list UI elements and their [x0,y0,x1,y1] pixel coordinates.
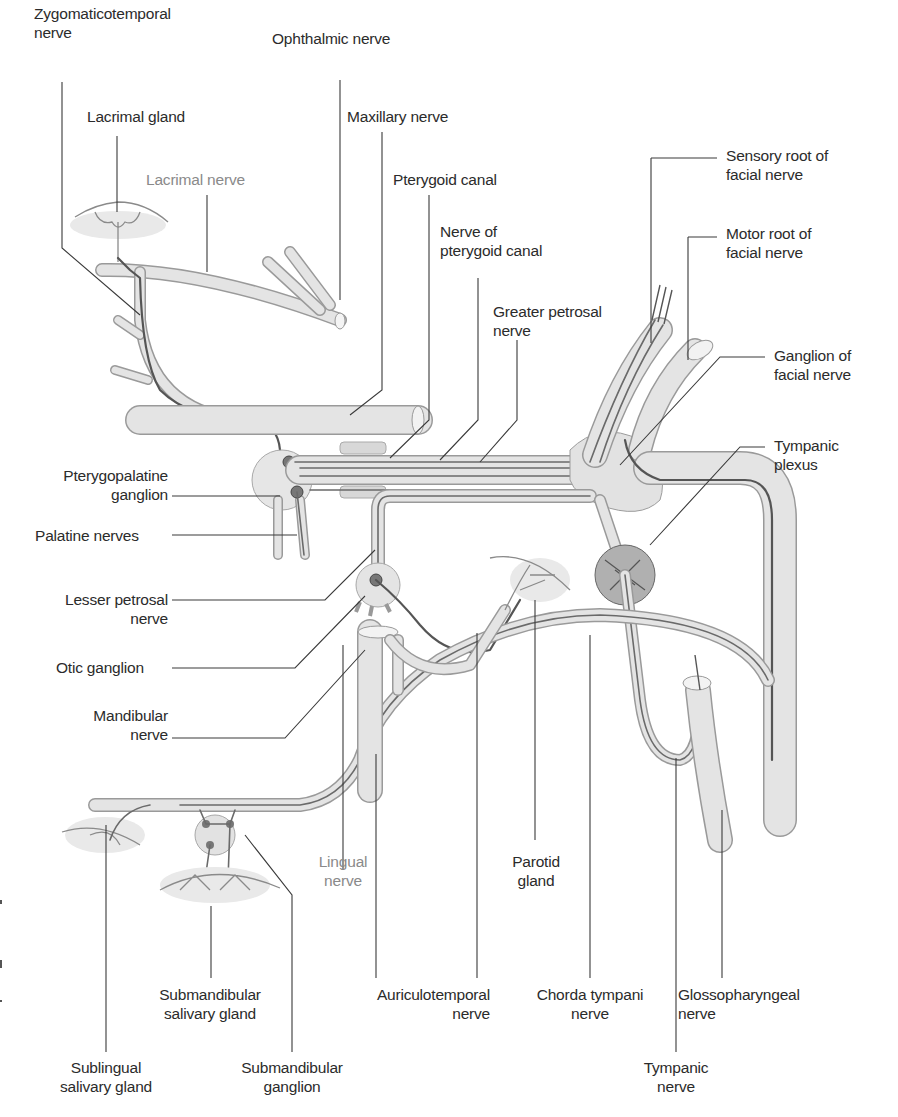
label-glossopharyngeal-nerve: Glossopharyngeal nerve [678,985,800,1023]
label-zygomaticotemporal-nerve: Zygomaticotemporal nerve [34,4,171,42]
label-tympanic-plexus: Tympanic plexus [774,436,839,474]
label-otic-ganglion: Otic ganglion [56,658,144,677]
label-ophthalmic-nerve: Ophthalmic nerve [272,29,390,48]
label-chorda-tympani-nerve: Chorda tympani nerve [515,985,665,1023]
label-maxillary-nerve: Maxillary nerve [347,107,448,126]
label-lacrimal-nerve: Lacrimal nerve [146,170,245,189]
pterygoid-canal-upper [340,442,386,454]
label-lesser-petrosal-nerve: Lesser petrosal nerve [30,590,168,628]
nerve-diagram: Zygomaticotemporal nerve Ophthalmic nerv… [0,0,898,1117]
submandibular-region [62,805,280,903]
label-motor-root-facial-nerve: Motor root of facial nerve [726,224,811,262]
label-sublingual-salivary-gland: Sublingual salivary gland [36,1058,176,1096]
label-nerve-of-pterygoid-canal: Nerve of pterygoid canal [440,222,542,260]
parotid-gland-shape [490,557,570,610]
lacrimal-gland-shape [70,202,168,262]
label-sensory-root-facial-nerve: Sensory root of facial nerve [726,146,828,184]
label-pterygopalatine-ganglion: Pterygopalatine ganglion [30,466,168,504]
label-submandibular-ganglion: Submandibular ganglion [222,1058,362,1096]
label-ganglion-facial-nerve: Ganglion of facial nerve [774,346,851,384]
label-palatine-nerves: Palatine nerves [35,526,139,545]
label-mandibular-nerve: Mandibular nerve [30,706,168,744]
label-submandibular-salivary-gland: Submandibular salivary gland [140,985,280,1023]
chorda-tympani-lingual [95,615,768,805]
label-pterygoid-canal: Pterygoid canal [393,170,497,189]
label-auriculotemporal-nerve: Auriculotemporal nerve [340,985,490,1023]
label-greater-petrosal-nerve: Greater petrosal nerve [493,302,602,340]
leader-lines [62,80,765,1052]
maxillary-nerve-trunk [140,406,424,434]
label-parotid-gland: Parotid gland [500,852,572,890]
label-lacrimal-gland: Lacrimal gland [87,107,185,126]
edge-specks [0,900,2,1002]
label-lingual-nerve: Lingual nerve [305,852,381,890]
label-tympanic-nerve: Tympanic nerve [626,1058,726,1096]
